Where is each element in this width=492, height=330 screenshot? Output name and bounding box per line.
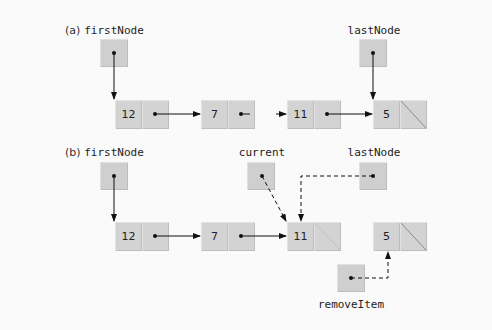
last-node-label: lastNode — [348, 24, 401, 37]
remove-item-label: removeItem — [318, 298, 384, 311]
node-data-cell: 12 — [115, 100, 142, 129]
node-data-cell: 7 — [201, 100, 228, 129]
node-next-cell — [314, 100, 341, 129]
node-null-cell — [400, 100, 427, 129]
remove-item-pointer-box — [337, 264, 365, 292]
node-next-cell — [142, 100, 169, 129]
linked-list-diagram: (a) firstNode lastNode 12 7 11 5 (b) fir… — [0, 0, 492, 330]
list-node: 7 — [201, 100, 255, 129]
part-b-label: (b) — [65, 146, 81, 159]
node-data-cell: 5 — [373, 222, 400, 251]
last-node-label: lastNode — [348, 146, 401, 159]
node-null-cell — [314, 222, 341, 251]
node-data-cell: 7 — [201, 222, 228, 251]
node-next-cell — [142, 222, 169, 251]
part-a-label: (a) — [65, 24, 80, 37]
list-node-removed: 5 — [373, 222, 427, 251]
list-node: 7 — [201, 222, 255, 251]
first-node-label: firstNode — [84, 24, 144, 37]
node-null-cell — [400, 222, 427, 251]
last-node-pointer-box — [359, 162, 387, 190]
node-data-cell: 5 — [373, 100, 400, 129]
first-node-label: firstNode — [84, 146, 144, 159]
node-data-cell: 11 — [287, 222, 314, 251]
last-node-pointer-box — [359, 39, 387, 67]
first-node-pointer-box — [100, 39, 128, 67]
list-node-new-tail: 11 — [287, 222, 341, 251]
list-node: 12 — [115, 222, 169, 251]
list-node: 11 — [287, 100, 341, 129]
node-next-cell — [228, 100, 255, 129]
node-data-cell: 11 — [287, 100, 314, 129]
node-next-cell — [228, 222, 255, 251]
list-node-tail: 5 — [373, 100, 427, 129]
node-data-cell: 12 — [115, 222, 142, 251]
current-pointer-box — [247, 162, 275, 190]
list-node: 12 — [115, 100, 169, 129]
current-label: current — [239, 146, 285, 159]
first-node-pointer-box — [100, 162, 128, 190]
arrows-overlay — [0, 0, 492, 330]
